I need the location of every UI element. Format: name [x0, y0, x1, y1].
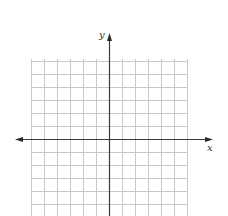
y-axis-label: y [98, 29, 105, 40]
y-axis-up-arrow-icon [107, 33, 112, 41]
x-axis-left-arrow-icon [15, 137, 23, 142]
x-axis-label: x [207, 142, 213, 153]
coordinate-plane: y x [0, 0, 228, 216]
y-axis [107, 33, 112, 216]
